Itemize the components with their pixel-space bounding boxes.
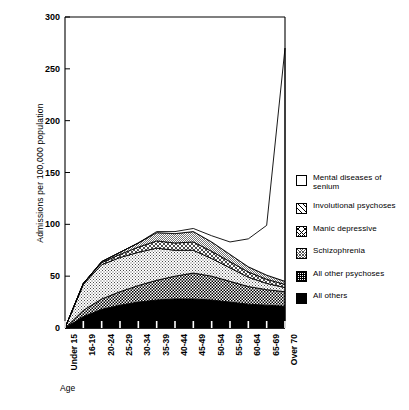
- legend-swatch-light-stipple-icon: [296, 248, 307, 259]
- x-axis-caption: Age: [60, 383, 75, 393]
- legend-label: Manic depressive: [313, 225, 377, 234]
- legend-swatch-white-icon: [296, 175, 307, 186]
- legend-swatch-diagonal-lines-icon: [296, 203, 307, 214]
- legend-label: Schizophrenia: [313, 247, 365, 256]
- legend-item-manic-depressive: Manic depressive: [296, 225, 408, 237]
- legend-item-schizophrenia: Schizophrenia: [296, 247, 408, 259]
- legend-label: All others: [313, 292, 347, 301]
- legend-label: All other psychoses: [313, 270, 384, 279]
- legend-label: Involutional psychoses: [313, 202, 396, 211]
- legend-swatch-cross-hatch-icon: [296, 226, 307, 237]
- legend-swatch-checkered-icon: [296, 271, 307, 282]
- chart-figure: Admissions per 100,000 population 050100…: [0, 0, 409, 410]
- legend-item-involutional-psychoses: Involutional psychoses: [296, 202, 408, 214]
- legend-swatch-solid-black-icon: [296, 293, 307, 304]
- stacked-bands: [65, 48, 285, 328]
- legend-item-all-others: All others: [296, 292, 408, 304]
- legend-item-all-other-psychoses: All other psychoses: [296, 270, 408, 282]
- legend-label: Mental diseases of senium: [313, 174, 408, 192]
- legend-item-mental-diseases-of-senium: Mental diseases of senium: [296, 174, 408, 192]
- chart-legend: Mental diseases of seniumInvolutional ps…: [296, 174, 408, 315]
